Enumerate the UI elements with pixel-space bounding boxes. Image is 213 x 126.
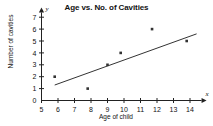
y-tick-label: 3 bbox=[33, 61, 37, 68]
x-tick-label: 11 bbox=[137, 106, 144, 113]
data-point bbox=[106, 64, 109, 67]
y-tick-label: 1 bbox=[33, 85, 37, 92]
axis-letters: xy bbox=[45, 5, 210, 97]
x-tick-label: 7 bbox=[73, 106, 77, 113]
y-tick-label: 4 bbox=[33, 50, 37, 57]
y-tick-label: 6 bbox=[33, 26, 37, 33]
y-tick-label: 0 bbox=[33, 97, 37, 104]
x-tick-label: 12 bbox=[153, 106, 161, 113]
y-tick-label: 2 bbox=[33, 73, 37, 80]
plot-area: 56789101112131401234567 xy bbox=[0, 0, 213, 126]
x-tick-label: 6 bbox=[56, 106, 60, 113]
axes bbox=[39, 7, 207, 103]
trend-line-segment bbox=[55, 34, 197, 85]
x-tick-label: 14 bbox=[186, 106, 194, 113]
y-tick-label: 7 bbox=[33, 14, 37, 21]
x-tick-label: 10 bbox=[120, 106, 128, 113]
y-axis-letter: y bbox=[45, 5, 50, 13]
x-tick-label: 8 bbox=[89, 106, 93, 113]
data-point bbox=[53, 75, 56, 78]
data-point bbox=[151, 28, 154, 31]
x-tick-label: 9 bbox=[106, 106, 110, 113]
x-axis-letter: x bbox=[205, 90, 210, 98]
scatter-plot-figure: Age vs. No. of Cavities Number of caviti… bbox=[0, 0, 213, 126]
axis-tick-labels: 56789101112131401234567 bbox=[33, 14, 194, 113]
x-tick-label: 5 bbox=[40, 106, 44, 113]
data-point bbox=[119, 52, 122, 55]
axis-ticks bbox=[39, 17, 190, 103]
data-point bbox=[86, 87, 89, 90]
data-point bbox=[185, 40, 188, 43]
data-points bbox=[53, 28, 188, 90]
trend-line bbox=[55, 34, 197, 85]
x-tick-label: 13 bbox=[170, 106, 178, 113]
y-tick-label: 5 bbox=[33, 38, 37, 45]
